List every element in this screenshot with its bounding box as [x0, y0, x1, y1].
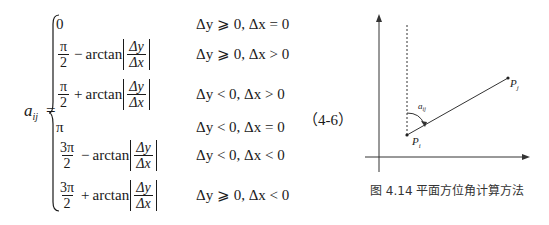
equation-number: （4-6） — [303, 108, 353, 129]
case-row-6: 3π2 + arctan ΔyΔx Δy ⩾ 0, Δx < 0 — [56, 177, 289, 213]
case-condition: Δy < 0, Δx = 0 — [196, 119, 285, 136]
case-row-5: 3π2 − arctan ΔyΔx Δy < 0, Δx < 0 — [56, 137, 285, 173]
case-expression: π2 + arctan ΔyΔx — [56, 79, 196, 110]
case-row-2: π2 − arctan ΔyΔx Δy ⩾ 0, Δx > 0 — [56, 36, 289, 72]
frac-num: 3π — [58, 140, 76, 155]
case-expression: π2 − arctan ΔyΔx — [56, 39, 196, 70]
arg-fraction: ΔyΔx — [134, 140, 152, 171]
label-pj: Pj — [509, 77, 519, 92]
function-name: arctan — [93, 187, 130, 204]
x-axis-arrow-icon — [522, 154, 530, 160]
frac-den: 2 — [58, 94, 69, 110]
frac-den: Δx — [134, 155, 152, 171]
case-condition: Δy ⩾ 0, Δx > 0 — [196, 45, 289, 63]
frac-num: Δy — [134, 140, 152, 155]
point-pi — [405, 133, 408, 136]
frac-den: 2 — [62, 155, 73, 171]
lhs-subscript: ij — [33, 111, 39, 122]
operator: + — [74, 86, 82, 103]
frac-num: Δy — [134, 180, 152, 195]
case-condition: Δy ⩾ 0, Δx = 0 — [196, 15, 289, 33]
frac-num: 3π — [58, 180, 76, 195]
const-value: 0 — [56, 16, 64, 33]
coefficient-fraction: π2 — [58, 39, 69, 70]
function-name: arctan — [93, 147, 130, 164]
y-axis-arrow-icon — [376, 14, 382, 22]
case-condition: Δy ⩾ 0, Δx < 0 — [196, 186, 289, 204]
frac-den: Δx — [127, 54, 145, 70]
lhs-variable: aij — [24, 101, 38, 122]
lhs-var: a — [24, 101, 33, 120]
angle-label: aij — [418, 101, 426, 112]
function-name: arctan — [86, 46, 123, 63]
label-pi: Pi — [411, 135, 421, 150]
case-expression: 3π2 + arctan ΔyΔx — [56, 180, 196, 211]
coefficient-fraction: 3π2 — [58, 140, 76, 171]
case-expression: 3π2 − arctan ΔyΔx — [56, 140, 196, 171]
absolute-value: ΔyΔx — [123, 79, 149, 110]
frac-num: π — [58, 79, 69, 94]
azimuth-figure: aij Pi Pj — [360, 10, 549, 180]
case-condition: Δy < 0, Δx < 0 — [196, 147, 285, 164]
case-row-3: π2 + arctan ΔyΔx Δy < 0, Δx > 0 — [56, 76, 285, 112]
const-value: π — [56, 119, 64, 136]
coefficient-fraction: π2 — [58, 79, 69, 110]
case-condition: Δy < 0, Δx > 0 — [196, 86, 285, 103]
absolute-value: ΔyΔx — [123, 39, 149, 70]
frac-num: π — [58, 39, 69, 54]
function-name: arctan — [86, 86, 123, 103]
figure-caption: 图 4.14 平面方位角计算方法 — [370, 181, 524, 198]
case-expression: π — [56, 119, 196, 136]
frac-den: 2 — [62, 195, 73, 211]
operator: + — [81, 187, 89, 204]
angle-arc — [407, 113, 424, 124]
operator: − — [81, 147, 89, 164]
frac-num: Δy — [127, 79, 145, 94]
arg-fraction: ΔyΔx — [127, 39, 145, 70]
operator: − — [74, 46, 82, 63]
frac-den: 2 — [58, 54, 69, 70]
frac-den: Δx — [127, 94, 145, 110]
arg-fraction: ΔyΔx — [127, 79, 145, 110]
absolute-value: ΔyΔx — [130, 180, 156, 211]
absolute-value: ΔyΔx — [130, 140, 156, 171]
frac-den: Δx — [134, 195, 152, 211]
coefficient-fraction: 3π2 — [58, 180, 76, 211]
frac-num: Δy — [127, 39, 145, 54]
arg-fraction: ΔyΔx — [134, 180, 152, 211]
case-expression: 0 — [56, 16, 196, 33]
